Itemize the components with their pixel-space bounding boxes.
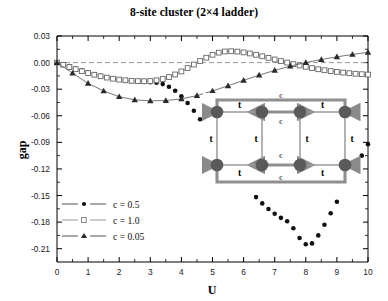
- y-tick-label: -0.18: [31, 217, 50, 227]
- data-point: [98, 74, 103, 79]
- data-point: [254, 52, 259, 57]
- data-point: [223, 49, 228, 54]
- figure-container: 8-site cluster (2×4 ladder) 0.030.00-0.0: [0, 0, 388, 301]
- inset-c-label: c: [279, 172, 283, 182]
- lattice-site: [294, 106, 307, 119]
- data-point: [210, 52, 215, 57]
- data-point: [179, 69, 184, 74]
- data-point: [204, 55, 209, 60]
- y-tick-label: 0.03: [34, 31, 51, 41]
- data-point: [303, 64, 308, 69]
- legend-label-c05: c = 0.5: [113, 199, 140, 210]
- data-point: [85, 80, 91, 86]
- x-tick-label: 0: [55, 267, 60, 277]
- data-point: [272, 211, 277, 216]
- data-point: [304, 242, 309, 247]
- data-point: [111, 76, 116, 81]
- data-point: [123, 78, 128, 83]
- inset-c-label: c: [279, 150, 283, 160]
- lattice-site: [339, 106, 352, 119]
- data-point: [79, 69, 84, 74]
- y-tick-label: -0.12: [31, 164, 50, 174]
- legend-marker-filled-circle: [82, 202, 86, 206]
- data-point: [254, 195, 259, 200]
- data-point: [335, 199, 340, 204]
- lattice-site: [211, 106, 224, 119]
- data-point: [235, 49, 240, 54]
- data-point: [142, 79, 147, 84]
- data-point: [241, 50, 246, 55]
- x-axis-label: U: [208, 283, 217, 297]
- data-point: [104, 75, 109, 80]
- data-point: [335, 69, 340, 74]
- data-point: [185, 101, 190, 106]
- data-point: [191, 62, 196, 67]
- data-point: [260, 201, 265, 206]
- data-point: [341, 70, 346, 75]
- data-point: [285, 219, 290, 224]
- data-point: [285, 60, 290, 65]
- legend-label-c10: c = 1.0: [113, 215, 140, 226]
- y-axis-label: gap: [15, 140, 29, 159]
- data-point: [272, 57, 277, 62]
- data-point: [260, 54, 265, 59]
- data-point: [328, 211, 333, 216]
- data-point: [129, 78, 134, 83]
- x-tick-label: 1: [86, 267, 91, 277]
- data-point: [316, 67, 321, 72]
- y-tick-label: -0.21: [31, 244, 50, 254]
- data-point: [135, 79, 140, 84]
- data-point: [100, 88, 106, 94]
- legend-marker-filled-triangle: [81, 233, 87, 238]
- data-point: [359, 153, 364, 158]
- data-point: [279, 216, 284, 221]
- data-point: [192, 108, 197, 113]
- chart-svg: 0.030.00-0.03-0.06-0.09-0.12-0.15-0.18-0…: [0, 0, 388, 301]
- legend-item-c10[interactable]: c = 1.0: [62, 215, 140, 226]
- data-point: [92, 72, 97, 77]
- data-point: [328, 69, 333, 74]
- x-tick-label: 10: [363, 267, 373, 277]
- y-tick-label: -0.15: [31, 191, 50, 201]
- lattice-site: [211, 159, 224, 172]
- x-tick-label: 4: [179, 267, 184, 277]
- y-tick-labels: 0.030.00-0.03-0.06-0.09-0.12-0.15-0.18-0…: [31, 31, 50, 254]
- x-tick-label: 9: [335, 267, 340, 277]
- legend-item-c05[interactable]: c = 0.5: [62, 199, 140, 210]
- y-tick-label: -0.06: [31, 111, 50, 121]
- lattice-site: [339, 159, 352, 172]
- data-point: [366, 72, 371, 77]
- data-point: [322, 68, 327, 73]
- data-point: [160, 82, 165, 87]
- data-point: [310, 241, 315, 246]
- data-point: [291, 226, 296, 231]
- data-point: [167, 84, 172, 89]
- inset-lattice-diagram: tttttttt cccc: [203, 90, 358, 195]
- data-point: [167, 75, 172, 80]
- x-tick-labels: 012345678910: [55, 267, 373, 277]
- data-point: [316, 233, 321, 238]
- x-tick-label: 2: [117, 267, 122, 277]
- y-tick-label: -0.09: [31, 137, 50, 147]
- data-point: [154, 78, 159, 83]
- data-point: [366, 142, 371, 147]
- legend-marker-open-square: [81, 218, 86, 223]
- data-point: [148, 79, 153, 84]
- data-point: [353, 71, 358, 76]
- data-point: [266, 55, 271, 60]
- data-point: [216, 50, 221, 55]
- legend-item-c005[interactable]: c = 0.05: [62, 231, 144, 242]
- x-tick-label: 5: [210, 267, 215, 277]
- inset-c-label: c: [279, 116, 283, 126]
- data-point: [198, 59, 203, 64]
- data-point: [322, 222, 327, 227]
- data-point: [73, 67, 78, 72]
- data-point: [297, 236, 302, 241]
- data-point: [266, 207, 271, 212]
- data-point: [173, 88, 178, 93]
- data-point: [279, 59, 284, 64]
- data-point: [173, 72, 178, 77]
- x-tick-label: 7: [272, 267, 277, 277]
- data-point: [247, 51, 252, 56]
- lattice-site: [256, 106, 269, 119]
